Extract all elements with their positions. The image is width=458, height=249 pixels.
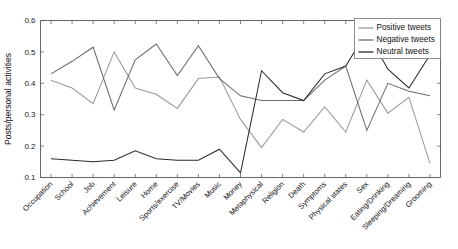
- legend-label-negative-tweets: Negative tweets: [377, 35, 435, 44]
- chart-figure: 0.10.20.30.40.50.6 OccupationSchoolJobAc…: [0, 0, 458, 249]
- y-tick-label: 0.4: [24, 79, 36, 88]
- chart-legend: Positive tweetsNegative tweetsNeutral tw…: [355, 19, 441, 59]
- y-tick-label: 0.3: [24, 110, 36, 119]
- x-tick-label: Sex: [355, 179, 371, 195]
- x-tick-label: Music: [202, 179, 223, 200]
- x-tick-label: Leisure: [115, 180, 139, 204]
- legend-label-neutral-tweets: Neutral tweets: [377, 47, 429, 56]
- y-tick-label: 0.5: [24, 48, 36, 57]
- legend-label-positive-tweets: Positive tweets: [377, 23, 432, 32]
- x-tick-label: Occupation: [21, 180, 55, 214]
- y-tick-label: 0.1: [24, 173, 36, 182]
- x-tick-label: Job: [82, 180, 97, 195]
- line-chart-svg: 0.10.20.30.40.50.6 OccupationSchoolJobAc…: [0, 0, 458, 249]
- y-tick-label: 0.6: [24, 16, 36, 25]
- y-axis-label: Posts/personal activities: [3, 53, 13, 145]
- y-axis: 0.10.20.30.40.50.6: [24, 16, 44, 182]
- x-tick-label: School: [53, 179, 76, 202]
- series-line-positive-tweets: [51, 52, 430, 163]
- x-tick-label: Religion: [260, 180, 286, 206]
- y-tick-label: 0.2: [24, 142, 36, 151]
